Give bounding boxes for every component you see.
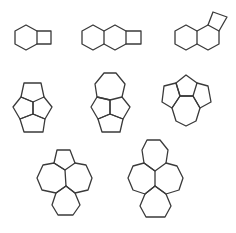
structure-7 <box>37 150 92 215</box>
ring-bond-path <box>54 150 75 170</box>
ring-bond-path <box>175 25 197 50</box>
ring-bond-path <box>52 186 80 215</box>
ring-bond-path <box>172 96 200 126</box>
ring-bond-path <box>37 31 51 44</box>
structure-5 <box>91 73 130 132</box>
structure-4 <box>13 83 52 132</box>
structure-6 <box>162 75 211 126</box>
ring-bond-path <box>126 31 141 44</box>
ring-bond-path <box>95 73 125 100</box>
ring-bond-path <box>20 114 45 132</box>
ring-bond-path <box>197 25 219 50</box>
ring-bond-path <box>142 140 168 171</box>
ring-bond-path <box>15 25 37 50</box>
molecule-diagram-canvas <box>0 0 236 233</box>
polycyclic-structures-figure <box>0 0 236 233</box>
structure-2 <box>82 25 141 50</box>
ring-bond-path <box>82 25 104 50</box>
structure-8 <box>128 140 183 217</box>
structure-3 <box>175 12 227 50</box>
ring-bond-path <box>140 186 171 217</box>
ring-bond-path <box>104 25 126 50</box>
structure-1 <box>15 25 51 50</box>
ring-bond-path <box>162 83 180 108</box>
ring-bond-path <box>208 12 227 31</box>
ring-bond-path <box>98 114 123 132</box>
ring-bond-path <box>21 83 44 102</box>
